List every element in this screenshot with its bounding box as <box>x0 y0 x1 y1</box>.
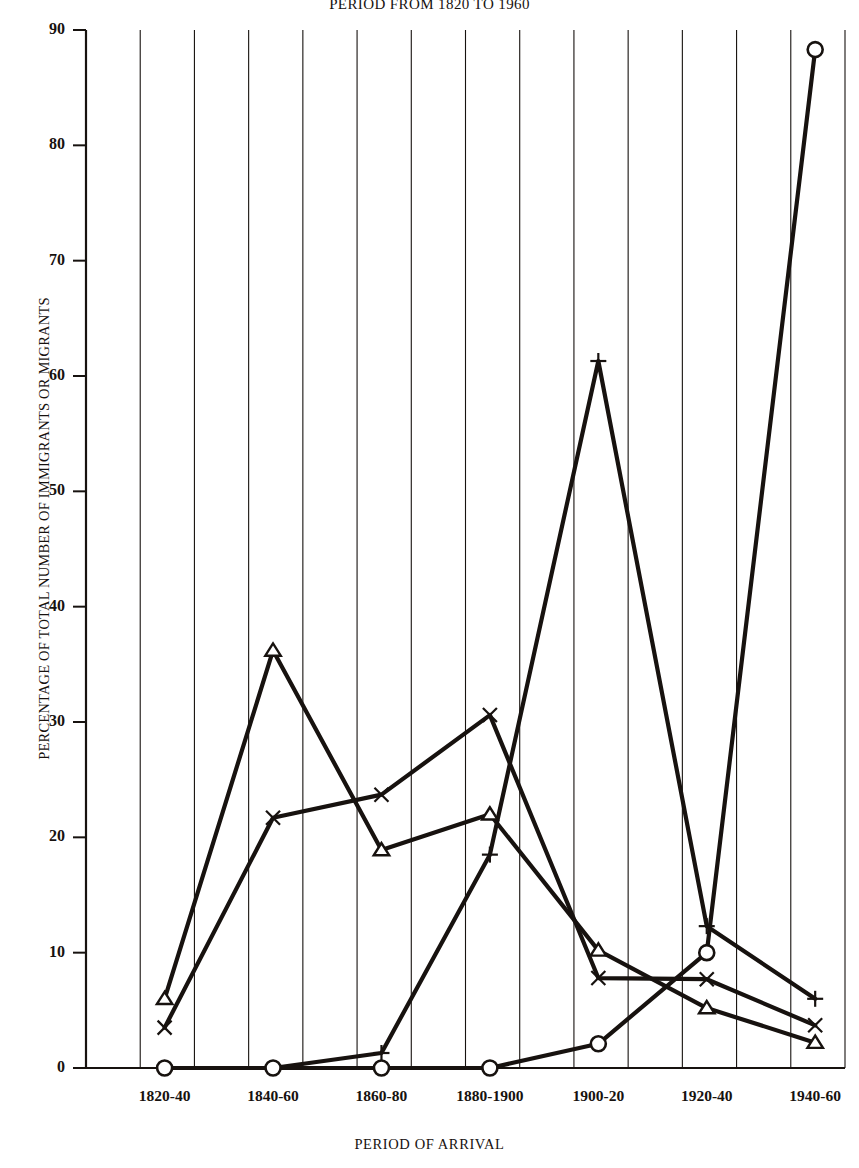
data-point-circle-marker <box>482 1061 497 1076</box>
data-point-triangle-marker <box>265 643 280 655</box>
data-point-circle-marker <box>591 1036 606 1051</box>
plot-area <box>0 0 859 1168</box>
data-point-circle-marker <box>157 1061 172 1076</box>
data-point-triangle-marker <box>482 807 497 819</box>
data-point-circle-marker <box>374 1061 389 1076</box>
data-point-circle-marker <box>699 945 714 960</box>
data-point-triangle-marker <box>157 992 172 1004</box>
series-line-circle-series <box>165 50 816 1068</box>
data-point-circle-marker <box>266 1061 281 1076</box>
data-point-circle-marker <box>808 42 823 57</box>
chart-container: PERIOD FROM 1820 TO 1960 PERCENTAGE OF T… <box>0 0 859 1168</box>
